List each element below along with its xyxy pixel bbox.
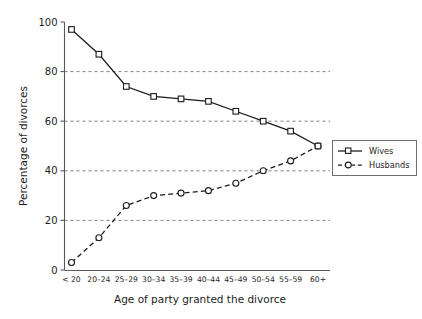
wives-data-point bbox=[151, 94, 157, 100]
husbands-data-point bbox=[69, 260, 75, 266]
x-axis-title: Age of party granted the divorce bbox=[114, 293, 286, 305]
husbands-data-point bbox=[288, 158, 294, 164]
husbands-data-point bbox=[96, 235, 102, 241]
wives-data-point bbox=[206, 99, 212, 105]
husbands-data-point bbox=[123, 203, 129, 209]
divorce-percentage-line-chart: 020406080100 < 2020–2425–2930–3435–3940–… bbox=[0, 0, 422, 319]
y-axis-ticks: 020406080100 bbox=[38, 17, 64, 276]
husbands-data-point bbox=[260, 168, 266, 174]
y-tick-label: 40 bbox=[45, 165, 58, 176]
series-wives bbox=[69, 27, 321, 149]
husbands-line bbox=[72, 146, 319, 263]
husbands-data-point bbox=[151, 193, 157, 199]
x-category-label: 50–54 bbox=[252, 275, 275, 284]
series-husbands bbox=[69, 143, 322, 266]
legend-husbands-marker bbox=[345, 162, 351, 168]
x-category-label: 30–34 bbox=[142, 275, 165, 284]
y-axis-title: Percentage of divorces bbox=[17, 86, 29, 206]
x-category-label: 60+ bbox=[310, 275, 326, 284]
x-category-label: < 20 bbox=[62, 275, 81, 284]
wives-data-point bbox=[69, 27, 75, 33]
y-tick-label: 20 bbox=[45, 215, 58, 226]
husbands-data-point bbox=[205, 188, 211, 194]
wives-data-point bbox=[123, 84, 129, 90]
husbands-data-point bbox=[178, 190, 184, 196]
legend-label-wives: Wives bbox=[369, 146, 393, 156]
x-category-label: 55–59 bbox=[279, 275, 302, 284]
gridlines bbox=[65, 72, 331, 221]
wives-line bbox=[72, 29, 319, 146]
x-category-label: 20–24 bbox=[87, 275, 110, 284]
x-axis-category-labels: < 2020–2425–2930–3435–3940–4445–4950–545… bbox=[62, 275, 326, 284]
x-category-label: 25–29 bbox=[115, 275, 138, 284]
y-tick-label: 100 bbox=[38, 17, 57, 28]
husbands-data-point bbox=[233, 180, 239, 186]
wives-data-point bbox=[315, 143, 321, 149]
x-category-label: 45–49 bbox=[224, 275, 247, 284]
chart-container: 020406080100 < 2020–2425–2930–3435–3940–… bbox=[0, 0, 422, 319]
wives-data-point bbox=[178, 96, 184, 102]
x-category-label: 35–39 bbox=[169, 275, 192, 284]
legend-label-husbands: Husbands bbox=[369, 160, 409, 170]
legend-wives-marker bbox=[346, 148, 351, 153]
wives-markers bbox=[69, 27, 321, 149]
wives-data-point bbox=[96, 51, 102, 57]
wives-data-point bbox=[233, 108, 239, 114]
wives-data-point bbox=[288, 128, 294, 134]
x-category-label: 40–44 bbox=[197, 275, 220, 284]
legend: Wives Husbands bbox=[333, 141, 417, 176]
y-tick-label: 0 bbox=[51, 265, 57, 276]
y-tick-label: 60 bbox=[45, 116, 58, 127]
husbands-markers bbox=[69, 143, 322, 266]
wives-data-point bbox=[260, 118, 266, 124]
y-tick-label: 80 bbox=[45, 66, 58, 77]
